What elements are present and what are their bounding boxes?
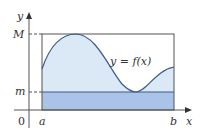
x-axis-label: x xyxy=(186,115,193,128)
y-axis-label: y xyxy=(16,10,24,23)
tick-label-m: m xyxy=(15,85,25,98)
lower-bound-rectangle xyxy=(42,92,174,110)
curve-label: y = f(x) xyxy=(109,55,151,68)
tick-label-a: a xyxy=(39,115,46,128)
x-axis-arrow-icon xyxy=(185,107,192,113)
y-axis-arrow-icon xyxy=(26,12,32,19)
diagram-canvas: y x 0 a b M m y = f(x) xyxy=(0,0,206,134)
tick-label-b: b xyxy=(170,115,177,128)
origin-label: 0 xyxy=(18,115,25,128)
tick-label-M: M xyxy=(12,28,25,41)
